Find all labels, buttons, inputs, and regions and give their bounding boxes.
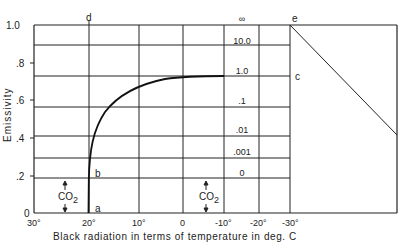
curve-label: .1 — [238, 96, 246, 106]
y-tick-label: 1.0 — [6, 20, 20, 31]
x-tick-label: -30° — [282, 218, 299, 228]
y-tick-label: .8 — [16, 58, 25, 69]
point-label-a: a — [95, 203, 101, 214]
vertical-gridlines — [89, 20, 290, 213]
y-tick-label: .2 — [16, 171, 25, 182]
y-tick-label: .6 — [16, 95, 25, 106]
x-axis-label: Black radiation in terms of temperature … — [53, 231, 297, 242]
curve-label: .01 — [236, 125, 249, 135]
x-tick-label: 20° — [82, 218, 96, 228]
y-axis-label: Emissivity — [2, 88, 13, 142]
horizontal-gridlines — [34, 45, 290, 178]
point-label-c: c — [295, 71, 300, 82]
y-tick-label: .4 — [16, 133, 25, 144]
co2-label-right: CO2 — [199, 191, 219, 205]
x-tick-label: -10° — [215, 218, 232, 228]
curve-label: 1.0 — [236, 66, 249, 76]
point-label-e: e — [292, 13, 298, 24]
x-tick-label: 30° — [27, 218, 41, 228]
x-tick-label: 10° — [132, 218, 146, 228]
point-label-d: d — [86, 12, 92, 23]
point-label-b: b — [95, 168, 101, 179]
co2-label-left: CO2 — [58, 191, 78, 205]
curve-label: 0 — [239, 168, 244, 178]
curve-label: .001 — [233, 147, 251, 157]
diagonal-line-e — [290, 25, 397, 135]
emissivity-chart: 1.0 .8 .6 .4 .2 0 Emissivity 30° 20° 10°… — [0, 0, 408, 248]
curve-label: 10.0 — [233, 36, 251, 46]
x-tick-label: 0 — [180, 218, 185, 228]
x-tick-label: -20° — [250, 218, 267, 228]
curve-label: ∞ — [239, 14, 245, 24]
